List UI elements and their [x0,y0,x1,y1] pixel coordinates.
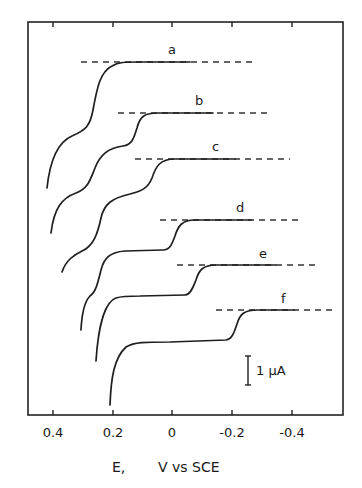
x-axis-label-e: E, [112,459,125,475]
curve-f [110,310,294,405]
curve-d [81,220,251,330]
curve-a [47,62,190,188]
curve-label-e: e [259,246,267,261]
curve-label-c: c [212,139,219,154]
curve-label-b: b [195,93,203,108]
tick-label-neg0.4: -0.4 [279,425,304,440]
tick-label-0.4: 0.4 [43,425,64,440]
curve-label-d: d [236,200,244,215]
curve-b [51,113,213,233]
x-axis-label-units: V vs SCE [158,459,220,475]
curve-label-f: f [281,291,286,306]
curve-c [62,159,235,272]
polarogram-chart: a b c d e f 1 μA 0.4 0.2 0 -0.2 -0.4 E, … [0,0,362,488]
tick-label-0: 0 [168,425,176,440]
plot-frame [28,22,343,415]
curves [47,62,294,405]
tick-label-0.2: 0.2 [103,425,124,440]
curve-label-a: a [168,42,176,57]
curve-e [96,265,276,361]
scale-bar [245,356,251,385]
dashed-baselines [81,62,335,310]
scale-bar-label: 1 μA [256,363,286,378]
tick-label-neg0.2: -0.2 [219,425,244,440]
